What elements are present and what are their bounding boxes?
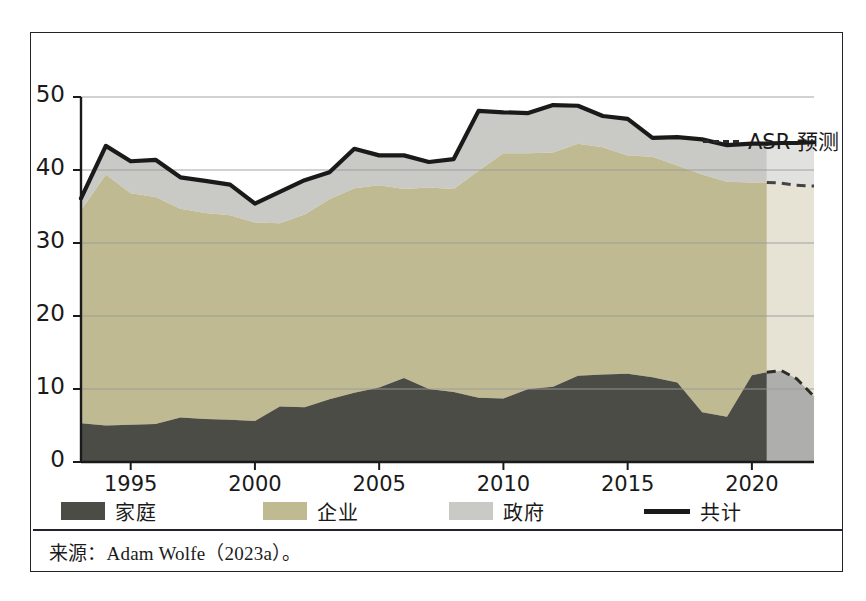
legend-label-government: 政府: [503, 497, 544, 526]
dashed-line-icon: [703, 140, 739, 143]
y-tick-label: 10: [19, 373, 65, 399]
legend-divider: [33, 529, 842, 531]
x-tick-label: 2005: [344, 472, 414, 496]
legend-item-household[interactable]: 家庭: [61, 497, 263, 526]
x-tick-label: 2015: [593, 472, 663, 496]
forecast-legend: ASR 预测: [703, 125, 839, 155]
legend-label-corporate: 企业: [317, 497, 358, 526]
y-tick-label: 50: [19, 81, 65, 107]
x-tick-label: 2010: [468, 472, 538, 496]
x-tick-label: 2000: [220, 472, 290, 496]
legend-line-total: [644, 509, 690, 514]
legend-label-total: 共计: [700, 497, 741, 526]
legend-item-total[interactable]: 共计: [644, 497, 741, 526]
y-tick-label: 20: [19, 300, 65, 326]
forecast-area-corporate: [767, 182, 814, 396]
legend-item-government[interactable]: 政府: [449, 497, 644, 526]
source-note: 来源：Adam Wolfe（2023a）。: [49, 538, 301, 565]
legend-swatch-corporate: [263, 502, 307, 520]
legend-swatch-household: [61, 502, 105, 520]
y-tick-label: 40: [19, 154, 65, 180]
y-tick-label: 0: [19, 446, 65, 472]
x-tick-label: 2020: [717, 472, 787, 496]
chart-legend: 家庭 企业 政府 共计: [61, 493, 844, 529]
forecast-legend-label: ASR 预测: [748, 125, 839, 155]
figure-panel: ASR 预测 家庭 企业 政府 共计 来源：Adam Wolfe（2023a）。…: [30, 32, 843, 572]
x-tick-label: 1995: [96, 472, 166, 496]
legend-item-corporate[interactable]: 企业: [263, 497, 449, 526]
legend-label-household: 家庭: [115, 497, 156, 526]
legend-swatch-government: [449, 502, 493, 520]
y-tick-label: 30: [19, 227, 65, 253]
